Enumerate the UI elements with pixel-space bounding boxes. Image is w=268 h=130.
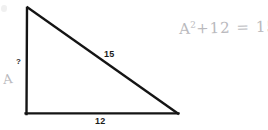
triangle-vertical-leg	[27, 8, 28, 114]
triangle-hypotenuse	[28, 7, 178, 113]
equation-base: A	[179, 20, 191, 38]
side-label-base: 12	[95, 117, 105, 126]
side-label-hypotenuse: 15	[104, 50, 114, 59]
side-label-unknown: ?	[16, 58, 21, 66]
equation-remainder: +12 = 15	[196, 17, 268, 37]
worksheet-canvas: 15 12 ? A A2+12 = 15	[0, 0, 268, 130]
handwritten-leg-variable: A	[2, 72, 13, 86]
handwritten-equation: A2+12 = 15	[179, 18, 268, 37]
